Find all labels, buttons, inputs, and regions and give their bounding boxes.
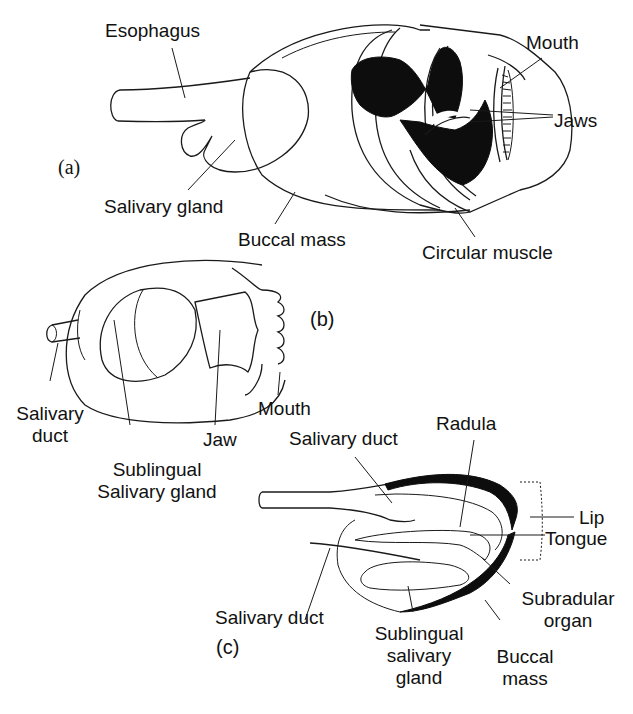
b-inner-curve	[135, 290, 158, 378]
leader-b-salivary-duct	[50, 343, 58, 381]
leader-c-salivary-duct-top	[355, 457, 392, 503]
b-mouth-lobes	[262, 290, 284, 364]
panel-c-tag: (c)	[216, 636, 239, 659]
label-sublingual-c: Sublingual salivary gland	[363, 623, 475, 689]
label-salivary-duct-b: Salivary duct	[8, 403, 92, 447]
label-jaw-b: Jaw	[203, 429, 237, 451]
c-body-outline	[337, 520, 400, 612]
label-sublingual-b-line1: Sublingual	[82, 459, 232, 481]
c-salivary-gland	[361, 562, 469, 590]
label-jaws: Jaws	[554, 110, 597, 132]
label-radula: Radula	[436, 413, 496, 435]
leader-salivary-gland	[188, 140, 235, 190]
leader-b-sublingual	[114, 320, 130, 425]
label-salivary-duct-c-top: Salivary duct	[289, 428, 398, 450]
label-sublingual-c-line3: gland	[363, 667, 475, 689]
label-circular-muscle: Circular muscle	[422, 242, 553, 264]
label-buccal-mass-c: Buccal mass	[484, 646, 566, 690]
buccal-mass-outline	[243, 25, 440, 210]
anatomy-figure: (a) Esophagus Mouth Jaws Salivary gland …	[0, 0, 633, 714]
c-lip-outline	[520, 482, 542, 560]
leader-esophagus	[172, 48, 185, 98]
esophagus-tube	[111, 78, 250, 122]
label-sublingual-c-line2: salivary	[363, 645, 475, 667]
leader-c-buccal	[485, 600, 500, 620]
label-salivary-duct-b-line1: Salivary	[8, 403, 92, 425]
b-outer-shell	[66, 260, 285, 422]
panel-b-drawing	[47, 260, 285, 425]
jaw-dark-upper	[351, 47, 462, 118]
label-subradular-line1: Subradular	[506, 588, 630, 610]
leader-buccal-mass	[275, 192, 295, 224]
leader-b-jaw	[215, 330, 220, 425]
label-sublingual-b-line2: Salivary gland	[82, 481, 232, 503]
panel-b-tag: (b)	[310, 308, 334, 331]
leader-b-mouth	[278, 372, 280, 395]
c-tongue-loop	[355, 530, 490, 560]
label-mouth-b: Mouth	[258, 398, 311, 420]
label-sublingual-b: Sublingual Salivary gland	[82, 459, 232, 503]
label-subradular-line2: organ	[506, 610, 630, 632]
label-subradular-organ: Subradular organ	[506, 588, 630, 632]
panel-a-tag: (a)	[58, 156, 80, 179]
label-sublingual-c-line1: Sublingual	[363, 623, 475, 645]
b-inner-arc	[78, 310, 85, 360]
label-tongue: Tongue	[545, 528, 607, 550]
label-buccal-c-line1: Buccal	[484, 646, 566, 668]
label-buccal-mass-a: Buccal mass	[238, 229, 346, 251]
label-mouth-a: Mouth	[526, 32, 579, 54]
mouth-rim	[488, 55, 525, 162]
label-salivary-duct-b-line2: duct	[8, 425, 92, 447]
label-lip: Lip	[579, 507, 604, 529]
b-duct	[47, 320, 80, 342]
label-esophagus: Esophagus	[105, 20, 200, 42]
b-jaw-plate	[195, 292, 258, 372]
label-buccal-c-line2: mass	[484, 668, 566, 690]
label-salivary-gland-a: Salivary gland	[104, 196, 223, 218]
c-inner-upper	[375, 494, 502, 550]
mouth-edge	[508, 70, 513, 160]
b-duct-end	[52, 325, 57, 342]
label-salivary-duct-c-bottom: Salivary duct	[215, 607, 324, 629]
